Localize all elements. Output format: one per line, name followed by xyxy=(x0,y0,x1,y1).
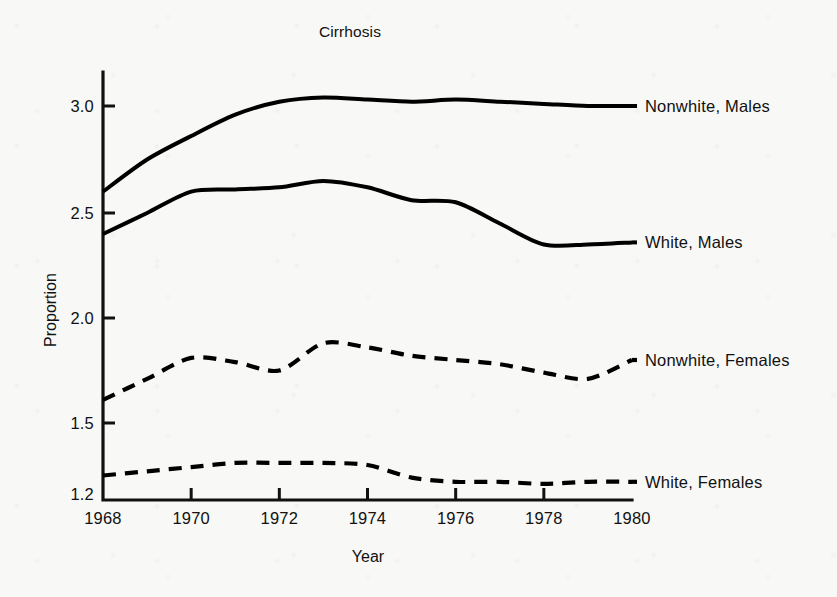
plot-area xyxy=(0,0,837,597)
series-label-leaders xyxy=(632,106,637,482)
x-axis-tick-label: 1976 xyxy=(437,509,475,528)
series-line xyxy=(103,97,632,191)
x-axis-tick-label: 1980 xyxy=(613,509,651,528)
x-axis-tick-label: 1974 xyxy=(349,509,387,528)
series-label: Nonwhite, Males xyxy=(645,97,770,116)
x-axis-tick-label: 1978 xyxy=(525,509,563,528)
y-axis-tick-label: 2.5 xyxy=(46,204,94,223)
axes xyxy=(103,72,632,500)
series-label: Nonwhite, Females xyxy=(645,351,790,370)
y-axis-title: Proportion xyxy=(42,273,60,347)
x-axis-tick-label: 1970 xyxy=(172,509,210,528)
series-lines xyxy=(103,97,632,484)
series-label: White, Males xyxy=(645,233,743,252)
y-axis-tick-label: 1.2 xyxy=(46,485,94,504)
x-axis-title: Year xyxy=(103,548,633,566)
cirrhosis-chart-figure: Cirrhosis 1.21.52.02.53.0 19681970197219… xyxy=(0,0,837,597)
y-axis-tick-label: 3.0 xyxy=(46,97,94,116)
x-axis-tick-label: 1968 xyxy=(84,509,122,528)
series-line xyxy=(103,463,632,484)
x-axis-tick-label: 1972 xyxy=(261,509,299,528)
series-line xyxy=(103,181,632,246)
y-axis-tick-label: 1.5 xyxy=(46,414,94,433)
series-label: White, Females xyxy=(645,472,762,491)
series-line xyxy=(103,342,632,400)
